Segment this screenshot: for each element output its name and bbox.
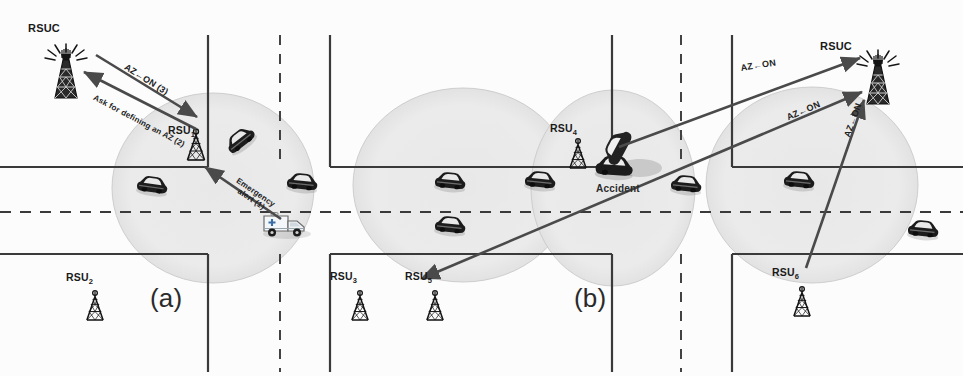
rsuc-left-label: RSUC [28,22,60,34]
rsuc-right-label: RSUC [820,40,852,52]
figure-root: RSUCRSUCRSU1RSU2RSU3RSU4RSU5RSU6(a)(b)Ac… [0,0,963,376]
rsu-6-tower [794,287,810,316]
rsu-5-tower [427,291,443,320]
rsu-5-label: RSU5 [405,270,432,285]
rsu-3-label: RSU3 [330,270,357,285]
accident-label: Accident [596,183,640,194]
rsu-4-label: RSU4 [550,122,577,137]
rsuc-left-tower [45,44,87,98]
rsu-2-label: RSU2 [66,271,93,286]
rsu-3-tower [352,291,368,320]
rsu-6-label: RSU6 [772,266,799,281]
panel-a-label: (a) [150,283,182,314]
rsuc-right-tower [857,50,899,104]
vehicle-9 [907,219,940,242]
rsu-2-tower [87,291,103,320]
panel-b-label: (b) [574,283,606,314]
vanet-diagram [0,0,963,376]
